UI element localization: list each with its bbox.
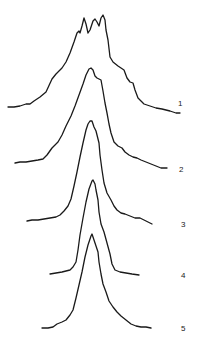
trace-label-5: 5 bbox=[181, 324, 186, 333]
trace-label-4: 4 bbox=[181, 271, 186, 280]
trace-group-5: 5 bbox=[42, 234, 186, 333]
trace-group-2: 2 bbox=[15, 68, 184, 174]
spectrum-trace-3 bbox=[27, 121, 152, 224]
stacked-spectra-chart: 1 2 3 4 5 bbox=[0, 0, 198, 344]
trace-group-4: 4 bbox=[50, 180, 186, 280]
trace-label-2: 2 bbox=[179, 165, 184, 174]
spectrum-trace-1 bbox=[8, 15, 180, 113]
trace-group-1: 1 bbox=[8, 15, 183, 113]
spectrum-trace-4 bbox=[50, 180, 139, 275]
spectrum-trace-5 bbox=[42, 234, 151, 328]
trace-label-3: 3 bbox=[181, 220, 186, 229]
trace-label-1: 1 bbox=[178, 99, 183, 108]
spectrum-trace-2 bbox=[15, 68, 167, 168]
trace-group-3: 3 bbox=[27, 121, 186, 229]
